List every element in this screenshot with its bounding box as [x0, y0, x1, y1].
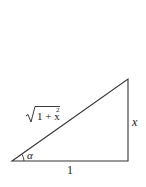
- horizontal-leg-label: 1: [67, 163, 73, 177]
- hypotenuse-label: 1 + x 2: [26, 106, 60, 122]
- triangle-diagram: 1 + x 2 x 1 α: [0, 0, 146, 187]
- angle-arc: [22, 154, 24, 161]
- hypotenuse-exponent: 2: [56, 106, 60, 114]
- vertical-leg-label: x: [131, 115, 138, 129]
- angle-label: α: [27, 149, 33, 161]
